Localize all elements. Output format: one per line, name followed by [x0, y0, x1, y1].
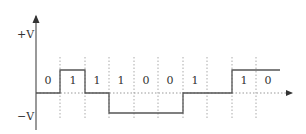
bit-label: 0	[45, 74, 52, 87]
waveform-diagram: +V −V 0 1 1 1 0 0 1 1 0	[0, 0, 306, 134]
bit-label: 0	[167, 74, 174, 87]
bit-label: 1	[94, 74, 101, 87]
bit-label: 0	[265, 74, 272, 87]
bit-label: 1	[241, 74, 248, 87]
bit-label: 1	[192, 74, 199, 87]
bit-boundary-lines	[60, 57, 256, 120]
bit-label: 0	[143, 74, 150, 87]
bit-label: 1	[118, 74, 125, 87]
minus-v-label: −V	[17, 110, 35, 123]
bit-label: 1	[70, 74, 77, 87]
plus-v-label: +V	[17, 28, 35, 41]
